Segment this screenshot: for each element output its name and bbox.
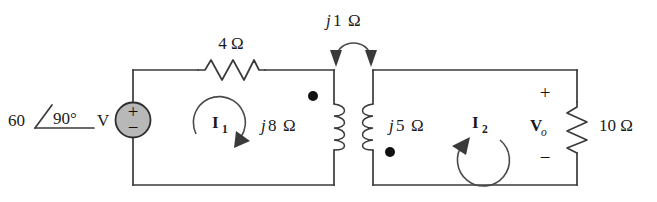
resistor-4-ohm-zigzag-icon — [198, 60, 265, 80]
inductor-j8-polarity-dot-icon — [308, 91, 318, 101]
inductor-j5-coil-icon — [363, 104, 374, 150]
left-mesh-wires — [133, 70, 334, 185]
inductor-j8-ohm[interactable]: j 8 Ω — [259, 91, 345, 150]
output-voltage-minus-sign: − — [540, 147, 551, 168]
mesh-current-1-arrowhead-icon — [234, 131, 250, 148]
mutual-inductance-prefix: j — [324, 11, 331, 30]
output-voltage-annotation: + V o − — [530, 82, 550, 168]
output-voltage-plus-sign: + — [540, 82, 551, 103]
mesh-current-2-subscript: 2 — [482, 123, 488, 135]
source-minus-sign: − — [128, 117, 139, 138]
inductor-j5-prefix: j — [387, 116, 394, 135]
mutual-inductance-value: 1 — [333, 11, 342, 30]
inductor-j5-polarity-dot-icon — [385, 147, 395, 157]
inductor-j5-ohm[interactable]: j 5 Ω — [363, 104, 424, 157]
inductor-j5-unit: Ω — [411, 116, 424, 135]
circuit-schematic-canvas: + − 60 90° V 4 Ω j 8 Ω j — [0, 0, 657, 202]
voltage-source-label-group: 60 90° V — [8, 105, 110, 130]
mesh-current-2-arrowhead-icon — [452, 137, 470, 155]
source-unit-label: V — [97, 111, 110, 130]
inductor-j8-prefix: j — [259, 116, 266, 135]
inductor-j8-unit: Ω — [283, 116, 296, 135]
mutual-arrow-left-icon — [330, 50, 342, 67]
mesh-current-1-label: I — [212, 113, 219, 132]
inductor-j8-value: 8 — [268, 116, 277, 135]
resistor-4-ohm-label: 4 Ω — [218, 34, 243, 53]
resistor-10-ohm[interactable]: 10 Ω — [567, 102, 633, 153]
resistor-4-ohm[interactable]: 4 Ω — [198, 34, 265, 80]
mesh-current-1-subscript: 1 — [222, 123, 228, 135]
source-angle-label: 90° — [53, 109, 77, 128]
mutual-inductance-indicator: j 1 Ω — [324, 11, 377, 67]
inductor-j8-coil-icon — [334, 104, 345, 150]
output-voltage-subscript: o — [541, 126, 547, 138]
angle-symbol-slash-icon — [35, 105, 52, 128]
mesh-current-2: I 2 — [452, 113, 509, 186]
mutual-inductance-unit: Ω — [348, 11, 361, 30]
mutual-arrow-right-icon — [365, 50, 377, 67]
mesh-current-1: I 1 — [193, 97, 250, 148]
resistor-10-ohm-zigzag-icon — [567, 102, 587, 153]
inductor-j5-value: 5 — [396, 116, 405, 135]
mesh-current-2-label: I — [472, 113, 479, 132]
source-magnitude-label: 60 — [8, 111, 25, 130]
resistor-10-ohm-label: 10 Ω — [599, 116, 633, 135]
voltage-source[interactable]: + − — [116, 101, 151, 138]
circuit-diagram-figure: + − 60 90° V 4 Ω j 8 Ω j — [0, 0, 657, 202]
mesh-current-1-arc-icon — [193, 97, 245, 137]
